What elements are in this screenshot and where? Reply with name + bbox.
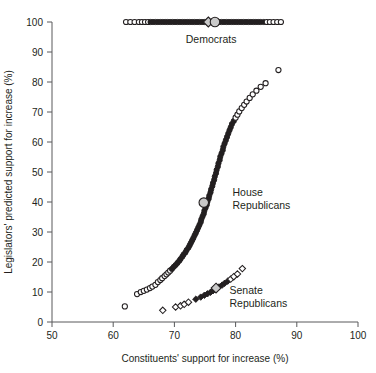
x-tick-label: 80 — [230, 330, 242, 341]
x-tick-label: 60 — [108, 330, 120, 341]
series-democrats — [123, 17, 283, 27]
chart-canvas: 50607080901000102030405060708090100Const… — [0, 0, 376, 373]
house-republicans-annotation-line1: House — [233, 186, 264, 198]
mean-marker-circle — [199, 198, 209, 208]
y-tick-label: 20 — [32, 257, 44, 268]
x-axis-title: Constituents' support for increase (%) — [122, 353, 289, 364]
y-tick-label: 40 — [32, 197, 44, 208]
y-tick-label: 30 — [32, 227, 44, 238]
democrats-annotation: Democrats — [186, 33, 237, 45]
y-tick-label: 80 — [32, 77, 44, 88]
data-point-marker — [254, 88, 259, 93]
y-tick-label: 10 — [32, 287, 44, 298]
x-tick-label: 100 — [350, 330, 367, 341]
data-point-marker — [239, 265, 245, 271]
y-tick-label: 60 — [32, 137, 44, 148]
data-series-layer — [122, 17, 283, 313]
scatter-plot-figure: 50607080901000102030405060708090100Const… — [0, 0, 376, 373]
y-tick-label: 90 — [32, 47, 44, 58]
x-tick-label: 70 — [169, 330, 181, 341]
y-tick-label: 50 — [32, 167, 44, 178]
data-point-marker — [278, 19, 283, 24]
senate-republicans-annotation-line1: Senate — [229, 284, 262, 296]
y-axis-title: Legislators' predicted support for incre… — [3, 70, 14, 274]
senate-republicans-annotation-line2: Republicans — [229, 297, 287, 309]
axes-group: 50607080901000102030405060708090100Const… — [3, 17, 367, 365]
data-point-marker — [263, 81, 268, 86]
data-point-marker — [160, 307, 166, 313]
annotation-layer: DemocratsHouseRepublicansSenateRepublica… — [186, 33, 291, 309]
house-republicans-annotation-line2: Republicans — [233, 199, 291, 211]
x-tick-label: 90 — [291, 330, 303, 341]
mean-marker-circle — [210, 17, 220, 27]
x-tick-label: 50 — [46, 330, 58, 341]
data-point-marker — [258, 84, 263, 89]
y-tick-label: 0 — [37, 317, 43, 328]
y-tick-label: 70 — [32, 107, 44, 118]
y-tick-label: 100 — [26, 17, 43, 28]
data-point-marker — [276, 67, 281, 72]
data-point-marker — [122, 304, 127, 309]
